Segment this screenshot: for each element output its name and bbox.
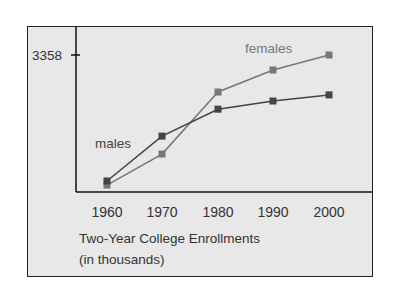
- males-marker: [159, 133, 166, 140]
- x-tick-label: 1960: [91, 204, 122, 220]
- series-females: [104, 52, 333, 189]
- x-tick-labels: 19601970198019902000: [91, 204, 344, 220]
- y-tick-label: 3358: [32, 48, 62, 63]
- x-tick-label: 2000: [313, 204, 344, 220]
- females-marker: [159, 151, 166, 158]
- line-chart: 3358 females males 19601970198019902000: [0, 0, 400, 297]
- females-label: females: [245, 41, 293, 56]
- males-marker: [104, 177, 111, 184]
- males-marker: [270, 98, 277, 105]
- females-marker: [326, 52, 333, 59]
- caption-line1: Two-Year College Enrollments: [79, 231, 260, 246]
- x-tick-label: 1990: [257, 204, 288, 220]
- series-layer: [104, 52, 333, 189]
- x-tick-label: 1980: [202, 204, 233, 220]
- males-label: males: [95, 136, 131, 151]
- series-males: [104, 91, 333, 184]
- females-marker: [215, 89, 222, 96]
- females-marker: [270, 67, 277, 74]
- females-line: [107, 55, 329, 185]
- x-tick-label: 1970: [146, 204, 177, 220]
- males-marker: [215, 106, 222, 113]
- males-marker: [326, 91, 333, 98]
- caption-line2: (in thousands): [79, 252, 165, 267]
